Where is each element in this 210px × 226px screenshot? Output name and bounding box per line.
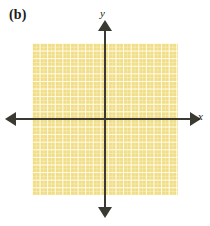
figure-panel-b: (b) y x xyxy=(0,0,210,226)
x-axis-label: x xyxy=(198,111,203,122)
y-axis-line xyxy=(104,26,106,212)
y-axis-down-arrowhead-icon xyxy=(98,207,112,218)
panel-label: (b) xyxy=(9,8,27,22)
y-axis-label: y xyxy=(100,8,105,19)
x-axis-left-arrowhead-icon xyxy=(5,112,16,126)
y-axis-up-arrowhead-icon xyxy=(98,20,112,31)
